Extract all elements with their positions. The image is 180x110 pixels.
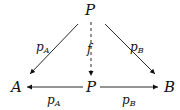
edge-label-f: f xyxy=(87,43,91,55)
node-top-p: P xyxy=(85,3,95,18)
node-center-p: P xyxy=(86,80,96,95)
edge-label-bottom-left: pA xyxy=(47,94,60,108)
commutative-diagram: P A P B pA pB f pA pB xyxy=(0,0,180,110)
edge-label-top-right: pB xyxy=(130,41,144,55)
node-b: B xyxy=(164,80,175,95)
edge-label-bottom-right: pB xyxy=(122,94,136,108)
node-a: A xyxy=(11,80,22,95)
edge-label-top-left: pA xyxy=(36,41,49,55)
